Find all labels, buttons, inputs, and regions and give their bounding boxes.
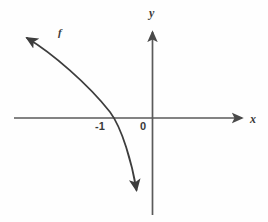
y-axis-label: y	[149, 7, 154, 19]
origin-label-zero: 0	[140, 121, 146, 132]
curve-label-f: f	[58, 27, 62, 38]
graph-figure: y x f -1 0	[0, 0, 268, 222]
x-axis-label: x	[250, 113, 256, 125]
function-curve-f	[27, 38, 137, 190]
x-tick-label-negative-one: -1	[95, 121, 105, 132]
coordinate-plane-svg	[0, 0, 268, 222]
